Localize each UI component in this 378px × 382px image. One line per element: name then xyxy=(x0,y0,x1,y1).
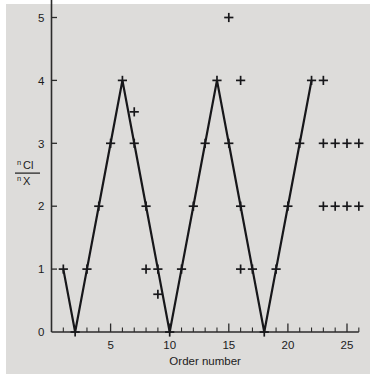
svg-text:X: X xyxy=(23,175,31,187)
y-axis-title-numerator: nCl xyxy=(17,158,33,171)
data-point-extra-25-3 xyxy=(342,139,351,148)
data-point-22-4 xyxy=(307,76,316,85)
x-tick-label-20: 20 xyxy=(282,339,295,351)
data-point-8-2 xyxy=(141,202,150,211)
data-point-12-2 xyxy=(189,202,198,211)
data-point-3-1 xyxy=(82,265,91,274)
y-tick-label-2: 2 xyxy=(38,200,44,212)
data-point-14-4 xyxy=(212,76,221,85)
data-point-2-0 xyxy=(71,327,80,336)
data-series-layer xyxy=(59,13,364,337)
x-tick-label-5: 5 xyxy=(107,339,113,351)
axis-labels-layer: 012345510152025Order numbernClnX xyxy=(15,12,353,367)
data-point-9-1 xyxy=(153,265,162,274)
scatter-line-chart: 012345510152025Order numbernClnX xyxy=(0,0,378,382)
data-point-5-3 xyxy=(106,139,115,148)
y-tick-label-4: 4 xyxy=(38,75,45,87)
data-point-1-1 xyxy=(59,265,68,274)
x-axis xyxy=(52,324,359,333)
y-tick-label-0: 0 xyxy=(38,326,44,338)
data-point-extra-23-3 xyxy=(319,139,328,148)
data-point-extra-26-2 xyxy=(354,202,363,211)
svg-text:n: n xyxy=(17,174,21,183)
data-point-11-1 xyxy=(177,265,186,274)
data-point-extra-24-2 xyxy=(331,202,340,211)
data-point-17-1 xyxy=(248,265,257,274)
data-point-extra-23-2 xyxy=(319,202,328,211)
data-point-extra-15-5 xyxy=(224,13,233,22)
figure-container: 012345510152025Order numbernClnX xyxy=(0,0,378,382)
svg-text:Cl: Cl xyxy=(23,159,33,171)
y-axis-title-denominator: nX xyxy=(17,174,31,187)
data-point-7-3 xyxy=(130,139,139,148)
data-point-extra-16-1 xyxy=(236,265,245,274)
chart-canvas: 012345510152025Order numbernClnX xyxy=(0,0,378,382)
svg-text:n: n xyxy=(17,158,21,167)
y-tick-label-5: 5 xyxy=(38,12,44,24)
data-point-extra-16-4 xyxy=(236,76,245,85)
x-axis-title: Order number xyxy=(169,355,241,367)
data-point-15-3 xyxy=(224,139,233,148)
data-point-20-2 xyxy=(283,202,292,211)
y-tick-label-1: 1 xyxy=(38,263,44,275)
data-point-21-3 xyxy=(295,139,304,148)
data-point-18-0 xyxy=(260,327,269,336)
data-point-extra-26-3 xyxy=(354,139,363,148)
data-point-extra-7-3.5 xyxy=(130,107,139,116)
data-point-extra-23-4 xyxy=(319,76,328,85)
data-point-6-4 xyxy=(118,76,127,85)
data-point-extra-24-3 xyxy=(331,139,340,148)
y-tick-label-3: 3 xyxy=(38,138,44,150)
data-point-10-0 xyxy=(165,327,174,336)
data-point-4-2 xyxy=(94,202,103,211)
data-point-13-3 xyxy=(201,139,210,148)
data-point-16-2 xyxy=(236,202,245,211)
x-tick-label-10: 10 xyxy=(163,339,176,351)
x-tick-label-15: 15 xyxy=(222,339,235,351)
x-tick-label-25: 25 xyxy=(341,339,354,351)
data-point-19-1 xyxy=(271,265,280,274)
data-point-extra-8-1 xyxy=(141,265,150,274)
data-point-extra-25-2 xyxy=(342,202,351,211)
y-axis xyxy=(52,0,58,332)
